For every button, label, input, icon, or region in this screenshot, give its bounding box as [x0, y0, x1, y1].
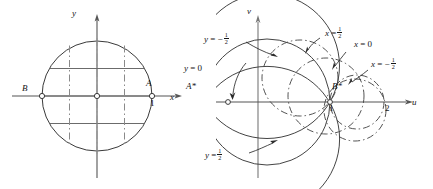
label-x-neg-half-sign: − — [385, 59, 390, 69]
label-y-pos-half-lhs: y — [205, 150, 209, 160]
point-A-value: 1 — [150, 99, 155, 108]
label-x-zero-eq: = — [360, 39, 365, 49]
point-B-star-text: B* — [332, 81, 342, 91]
label-y-pos-half-eq: = — [211, 150, 216, 160]
image-curves-x-const — [262, 40, 386, 141]
label-x-neg-half-lhs: x — [371, 59, 375, 69]
label-y-zero-lhs: y — [184, 63, 188, 73]
label-y-pos-half-denominator: 2 — [217, 155, 222, 161]
left-y-axis-label: y — [72, 9, 76, 18]
label-x-zero: x = 0 — [354, 40, 372, 49]
right-u-axis-label: u — [412, 98, 417, 107]
right-v-axis-label: v — [247, 7, 251, 16]
point-A-star-label: A* — [186, 82, 196, 91]
left-x-axis-label: x — [170, 93, 174, 102]
label-x-pos-half-eq: = — [331, 28, 336, 38]
label-y-neg-half-lhs: y — [204, 34, 208, 44]
label-x-zero-rhs: 0 — [368, 39, 373, 49]
label-x-neg-half-eq: = — [377, 59, 382, 69]
label-x-neg-half: x = −12 — [371, 57, 396, 71]
label-x-pos-half-denominator: 2 — [337, 33, 342, 39]
label-y-zero: y = 0 — [184, 64, 202, 73]
point-B-marker — [39, 93, 44, 98]
label-x-pos-half-lhs: x — [325, 28, 329, 38]
point-A-star-marker-visible — [226, 100, 231, 105]
label-y-zero-rhs: 0 — [198, 63, 203, 73]
image-curve-x-pos-half — [262, 40, 338, 116]
label-y-zero-eq: = — [190, 63, 195, 73]
label-x-neg-half-fraction: 12 — [391, 57, 396, 71]
label-y-pos-half: y =12 — [205, 148, 222, 162]
origin-marker — [94, 93, 99, 98]
right-tick-1-label: 1 — [329, 104, 334, 113]
point-A-star-text: A* — [186, 81, 196, 91]
label-y-neg-half-eq: = — [210, 34, 215, 44]
point-B-star-label: B* — [332, 82, 342, 91]
label-x-pos-half: x =12 — [325, 26, 342, 40]
label-y-neg-half-sign: − — [218, 34, 223, 44]
label-y-neg-half-denominator: 2 — [224, 39, 229, 45]
left-plane-diagram — [0, 0, 216, 189]
label-y-neg-half: y = −12 — [204, 32, 229, 46]
label-y-neg-half-fraction: 12 — [224, 32, 229, 46]
label-x-pos-half-fraction: 12 — [337, 26, 342, 40]
leader-arrows — [230, 38, 368, 153]
point-A-label: A — [146, 79, 152, 88]
point-B-label: B — [22, 84, 28, 93]
label-x-neg-half-denominator: 2 — [391, 64, 396, 70]
conformal-mapping-figure: y x A 1 B — [0, 0, 433, 189]
u-axis — [216, 100, 413, 105]
right-tick-2-label: 2 — [385, 104, 390, 113]
label-y-pos-half-fraction: 12 — [217, 148, 222, 162]
label-x-zero-lhs: x — [354, 39, 358, 49]
